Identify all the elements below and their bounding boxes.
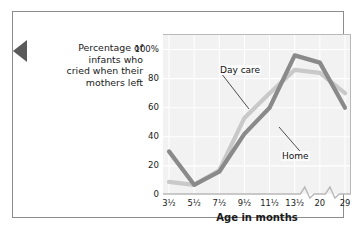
chart-svg	[163, 35, 351, 194]
chart-plot-wrapper: Day care Home 020406080100% 3½5½7½9½11½1…	[151, 22, 351, 207]
chart-gridlines	[163, 35, 351, 194]
x-tick-label: 13½	[285, 198, 304, 208]
y-tick-label: 0	[119, 189, 159, 199]
series-line-day-care	[169, 70, 345, 185]
series-label-day-care: Day care	[219, 65, 261, 75]
y-tick-label: 20	[119, 160, 159, 170]
y-tick-label: 80	[119, 73, 159, 83]
y-tick-label: 60	[119, 102, 159, 112]
left-pointer-triangle-icon	[13, 40, 27, 62]
y-tick-label: 40	[119, 131, 159, 141]
x-tick-label: 29	[340, 198, 351, 208]
x-tick-label: 9½	[238, 198, 251, 208]
y-tick-label: 100%	[119, 44, 159, 54]
x-axis-title: Age in months	[163, 212, 351, 223]
y-axis-caption-line-2: infants who	[31, 54, 143, 66]
chart-plot-area: Day care Home	[163, 34, 351, 194]
series-label-home: Home	[281, 151, 310, 161]
x-tick-label: 11½	[260, 198, 279, 208]
figure-card: Percentage of infants who cried when the…	[12, 11, 344, 218]
x-tick-label: 3½	[162, 198, 175, 208]
x-tick-label: 20	[315, 198, 326, 208]
x-tick-label: 5½	[187, 198, 200, 208]
x-tick-label: 7½	[213, 198, 226, 208]
